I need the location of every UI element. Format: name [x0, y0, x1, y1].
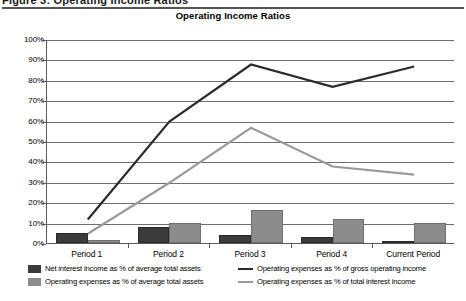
legend-item-opex-gross-income: Operating expenses as % of gross operati… [238, 262, 426, 275]
y-axis-tick-label: 30% [4, 179, 44, 187]
y-axis-tick-label: 0% [4, 240, 44, 248]
header-divider [2, 7, 464, 9]
x-axis-tick-mark [291, 244, 292, 248]
y-axis-tick-label: 90% [4, 56, 44, 64]
y-axis-tick-label: 20% [4, 199, 44, 207]
x-axis-tick-label: Period 1 [46, 249, 128, 259]
legend-label: Operating expenses as % of average total… [45, 277, 203, 286]
legend-label: Operating expenses as % of gross operati… [257, 264, 426, 273]
x-axis-tick-mark [372, 244, 373, 248]
line-series [47, 40, 455, 244]
x-axis-tick-label: Current Period [372, 249, 454, 259]
legend-item-net-interest-income: Net interest income as % of average tota… [28, 262, 203, 275]
x-axis-tick-label: Period 3 [209, 249, 291, 259]
legend-label: Operating expenses as % of total interes… [257, 277, 415, 286]
legend-label: Net interest income as % of average tota… [45, 264, 201, 273]
y-axis-tick-mark [42, 244, 46, 245]
chart-legend: Net interest income as % of average tota… [0, 262, 466, 296]
legend-swatch-bar-dark-icon [28, 265, 41, 273]
legend-column-lines: Operating expenses as % of gross operati… [238, 262, 426, 288]
legend-swatch-line-dark-icon [238, 268, 253, 270]
y-axis-tick-label: 50% [4, 138, 44, 146]
y-axis-tick-label: 80% [4, 77, 44, 85]
x-axis-tick-label: Period 4 [291, 249, 373, 259]
y-axis-tick-label: 10% [4, 220, 44, 228]
legend-swatch-bar-light-icon [28, 278, 41, 286]
x-axis-tick-label: Period 2 [128, 249, 210, 259]
legend-swatch-line-light-icon [238, 281, 253, 283]
chart-page: Figure 3: Operating Income Ratios Operat… [0, 0, 466, 301]
chart-title: Operating Income Ratios [0, 10, 466, 21]
legend-column-bars: Net interest income as % of average tota… [28, 262, 203, 288]
y-axis-tick-label: 60% [4, 118, 44, 126]
legend-item-opex-avg-assets: Operating expenses as % of average total… [28, 275, 203, 288]
y-axis-tick-label: 100% [4, 36, 44, 44]
line-path [88, 128, 414, 234]
plot-area [46, 40, 454, 244]
cropped-figure-heading: Figure 3: Operating Income Ratios [0, 0, 466, 6]
line-path [88, 64, 414, 219]
y-axis-tick-label: 70% [4, 97, 44, 105]
y-axis-tick-label: 40% [4, 158, 44, 166]
legend-item-opex-interest-income: Operating expenses as % of total interes… [238, 275, 426, 288]
x-axis-tick-mark [128, 244, 129, 248]
x-axis-tick-mark [209, 244, 210, 248]
